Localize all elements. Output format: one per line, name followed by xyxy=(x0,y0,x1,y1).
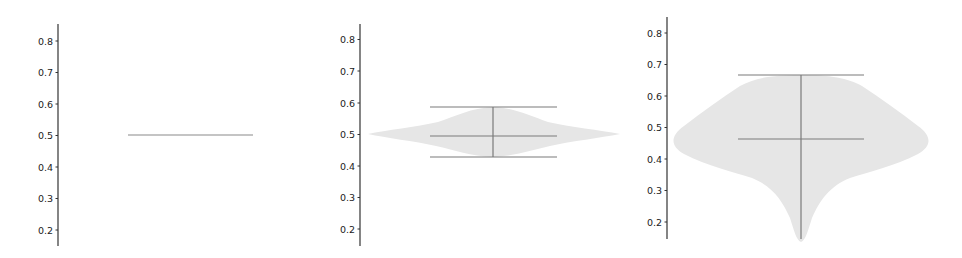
y-tick-label: 0.6 xyxy=(647,91,662,102)
y-tick-label: 0.4 xyxy=(38,162,53,173)
y-tick-labels: 0.8 0.7 0.6 0.5 0.4 0.3 0.2 xyxy=(340,34,355,235)
y-tick-label: 0.7 xyxy=(647,59,662,70)
panel-3: 0.8 0.7 0.6 0.5 0.4 0.3 0.2 xyxy=(647,17,929,242)
y-tick-label: 0.4 xyxy=(340,161,355,172)
y-tick-label: 0.6 xyxy=(340,98,355,109)
y-tick-label: 0.5 xyxy=(38,130,53,141)
violin-plot-figure: 0.8 0.7 0.6 0.5 0.4 0.3 0.2 0.8 0.7 0.6 … xyxy=(0,0,962,258)
y-tick-labels: 0.8 0.7 0.6 0.5 0.4 0.3 0.2 xyxy=(38,36,53,236)
y-tick-labels: 0.8 0.7 0.6 0.5 0.4 0.3 0.2 xyxy=(647,28,662,228)
y-tick-label: 0.8 xyxy=(647,28,662,39)
y-tick-label: 0.6 xyxy=(38,99,53,110)
y-tick-label: 0.8 xyxy=(340,34,355,45)
y-tick-label: 0.7 xyxy=(340,66,355,77)
y-tick-label: 0.5 xyxy=(647,122,662,133)
y-tick-label: 0.2 xyxy=(38,225,53,236)
y-tick-label: 0.2 xyxy=(647,217,662,228)
y-tick-label: 0.3 xyxy=(340,192,355,203)
panel-2: 0.8 0.7 0.6 0.5 0.4 0.3 0.2 xyxy=(340,24,620,246)
panel-1: 0.8 0.7 0.6 0.5 0.4 0.3 0.2 xyxy=(38,24,253,246)
y-tick-label: 0.5 xyxy=(340,129,355,140)
y-tick-label: 0.3 xyxy=(647,185,662,196)
y-tick-label: 0.4 xyxy=(647,154,662,165)
y-tick-label: 0.8 xyxy=(38,36,53,47)
violin-body xyxy=(368,107,620,157)
y-tick-label: 0.7 xyxy=(38,67,53,78)
y-tick-label: 0.2 xyxy=(340,224,355,235)
y-tick-label: 0.3 xyxy=(38,193,53,204)
